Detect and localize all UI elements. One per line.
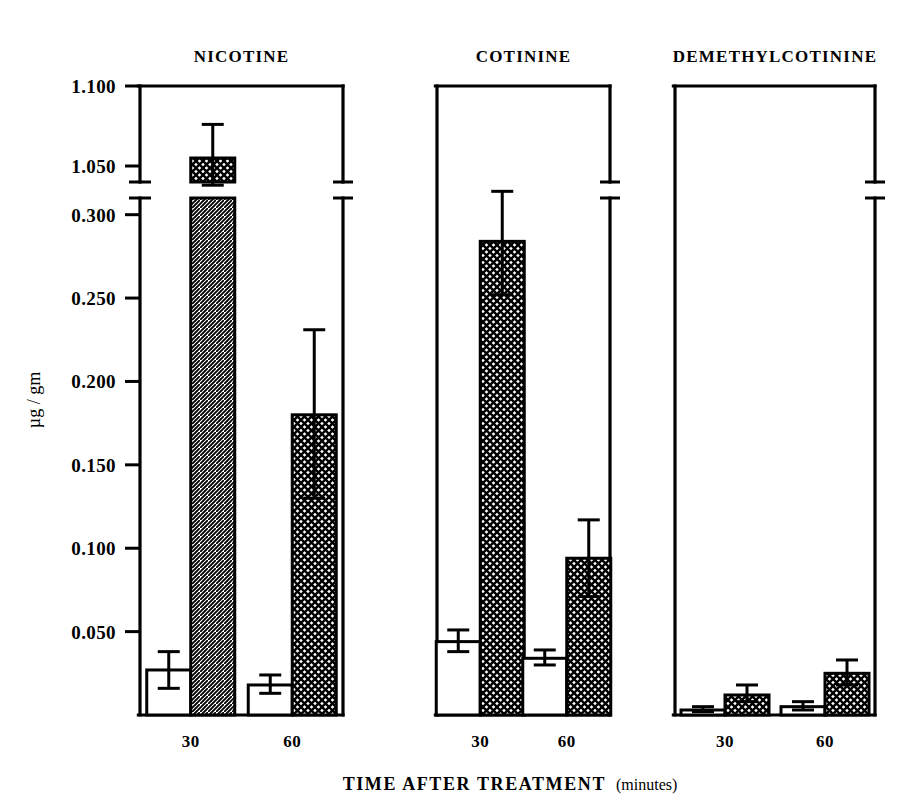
xtick-2-0: 30: [716, 732, 734, 751]
bar-nicotine-30-hatched-seg0: [191, 198, 235, 715]
panel-title-0: NICOTINE: [194, 47, 290, 66]
xtick-1-0: 30: [471, 732, 489, 751]
x-axis-title: TIME AFTER TREATMENT(minutes): [343, 774, 678, 794]
bar-cotinine-30-hatched: [480, 241, 524, 715]
figure-root: NICOTINECOTININEDEMETHYLCOTININE 1.1001.…: [0, 0, 921, 801]
ytick-upper-0-label: 1.100: [71, 76, 116, 97]
panel-title-2: DEMETHYLCOTININE: [673, 47, 877, 66]
xtick-2-1: 60: [816, 732, 834, 751]
ytick-lower-0-label: 0.300: [71, 205, 116, 226]
xtick-0-1: 60: [283, 732, 301, 751]
ytick-lower-5-label: 0.050: [71, 622, 116, 643]
ytick-upper-1-label: 1.050: [71, 156, 116, 177]
ytick-lower-3-label: 0.150: [71, 455, 116, 476]
xtick-1-1: 60: [558, 732, 576, 751]
ytick-lower-1-label: 0.250: [71, 288, 116, 309]
panel-title-1: COTININE: [476, 47, 572, 66]
bar-chart: NICOTINECOTININEDEMETHYLCOTININE 1.1001.…: [0, 0, 921, 801]
ytick-lower-2-label: 0.200: [71, 371, 116, 392]
bar-cotinine-60-open: [523, 658, 567, 715]
y-axis-title: µg / gm: [24, 372, 44, 428]
ytick-lower-4-label: 0.100: [71, 538, 116, 559]
xtick-0-0: 30: [182, 732, 200, 751]
x-axis-title-suffix: (minutes): [616, 776, 677, 794]
